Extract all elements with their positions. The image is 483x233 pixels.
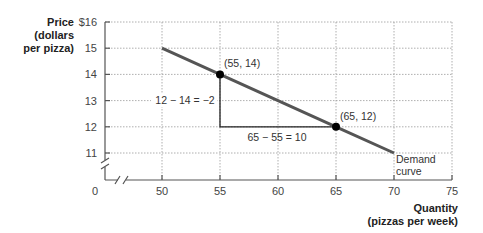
rise-label: 12 − 14 = −2 (155, 94, 214, 106)
svg-text:(pizzas per week): (pizzas per week) (368, 215, 459, 227)
x-axis-break-icon (115, 176, 128, 184)
origin-label: 0 (92, 185, 98, 197)
demand-curve-label: Demand (396, 153, 436, 165)
data-point-marker (332, 123, 340, 131)
svg-text:Quantity: Quantity (413, 202, 458, 214)
x-tick-label: 65 (330, 185, 342, 197)
x-tick-label: 70 (388, 185, 400, 197)
y-tick-label: $16 (79, 16, 97, 28)
data-point-label: (65, 12) (340, 110, 376, 122)
x-tick-labels: 505560657075 (156, 185, 458, 197)
data-points: (55, 14)(65, 12) (216, 57, 376, 130)
x-axis-title: Quantity (pizzas per week) (368, 202, 459, 227)
y-tick-labels: $161514131211 (79, 16, 97, 159)
data-point-marker (216, 70, 224, 78)
run-label: 65 − 55 = 10 (248, 131, 307, 143)
svg-text:Price: Price (47, 16, 74, 28)
svg-text:(dollars: (dollars (34, 29, 74, 41)
x-tick-label: 50 (156, 185, 168, 197)
y-tick-label: 11 (86, 147, 97, 159)
data-point-label: (55, 14) (224, 57, 260, 69)
demand-curve-chart: $161514131211 505560657075 0 Price (doll… (0, 0, 483, 233)
x-tick-label: 60 (272, 185, 284, 197)
x-tick-label: 75 (446, 185, 458, 197)
y-tick-label: 12 (85, 121, 97, 133)
y-tick-label: 14 (85, 68, 97, 80)
y-tick-label: 15 (85, 42, 97, 54)
y-tick-label: 13 (85, 95, 97, 107)
svg-text:per pizza): per pizza) (23, 42, 74, 54)
x-tick-label: 55 (214, 185, 226, 197)
y-axis-title: Price (dollars per pizza) (23, 16, 74, 54)
demand-curve-label: curve (396, 165, 422, 177)
